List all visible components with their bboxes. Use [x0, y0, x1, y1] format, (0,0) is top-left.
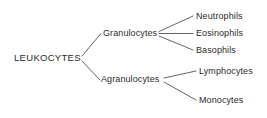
node-neutrophils: Neutrophils — [196, 11, 243, 22]
edge-agranulocytes-to-monocytes — [164, 82, 196, 100]
node-basophils: Basophils — [196, 45, 236, 56]
node-lymphocytes: Lymphocytes — [199, 66, 253, 77]
edge-agranulocytes-to-lymphocytes — [164, 71, 196, 78]
node-granulocytes: Granulocytes — [103, 28, 157, 39]
node-monocytes: Monocytes — [199, 95, 243, 106]
edge-granulocytes-to-neutrophils — [159, 16, 193, 32]
leukocyte-tree-diagram: LEUKOCYTES Granulocytes Agranulocytes Ne… — [0, 0, 267, 118]
node-agranulocytes: Agranulocytes — [101, 74, 159, 85]
node-eosinophils: Eosinophils — [196, 28, 243, 39]
edge-root-to-agranulocytes — [82, 61, 100, 80]
edge-granulocytes-to-basophils — [159, 36, 193, 50]
node-leukocytes: LEUKOCYTES — [14, 52, 81, 63]
edge-root-to-granulocytes — [82, 34, 101, 57]
